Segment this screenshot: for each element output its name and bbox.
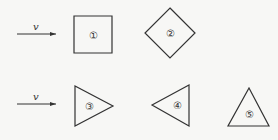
shape-label: ②	[166, 28, 175, 39]
shape-1-square: ①	[74, 16, 112, 53]
velocity-arrow-2: v	[17, 91, 56, 104]
shape-label: ①	[89, 30, 98, 41]
shape-3-triangle-right: ③	[75, 86, 113, 126]
triangle-icon	[75, 86, 113, 126]
triangle-icon	[152, 85, 189, 126]
shape-label: ⑤	[245, 109, 254, 120]
diagram-svg: v ① ② v ③ ④ ⑤	[0, 0, 278, 140]
velocity-label: v	[33, 91, 39, 102]
velocity-arrow-1: v	[17, 21, 56, 34]
velocity-label: v	[33, 21, 39, 32]
shape-label: ④	[173, 100, 182, 111]
diagram-canvas: v ① ② v ③ ④ ⑤	[0, 0, 278, 140]
shape-4-triangle-left: ④	[152, 85, 189, 126]
shape-label: ③	[85, 101, 94, 112]
shape-2-diamond: ②	[145, 8, 195, 58]
triangle-icon	[228, 88, 269, 126]
shape-5-triangle-up: ⑤	[228, 88, 269, 126]
